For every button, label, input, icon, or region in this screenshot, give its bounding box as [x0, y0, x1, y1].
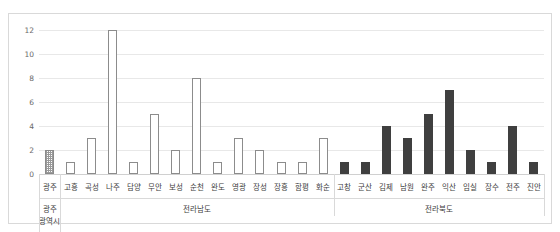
- bar-slot: [186, 30, 207, 174]
- group-label-line: 광역시: [39, 216, 60, 228]
- group-axis-labels: 광주광역시전라남도전라북도: [39, 198, 544, 232]
- category-label-고창: 고창: [334, 174, 355, 198]
- category-label-곡성: 곡성: [81, 174, 102, 198]
- bar-무안: [150, 114, 159, 174]
- bar-slot: [292, 30, 313, 174]
- bar-전주: [508, 126, 517, 174]
- bar-진안: [529, 162, 538, 174]
- category-label-장흥: 장흥: [271, 174, 292, 198]
- bar-고창: [340, 162, 349, 174]
- group-label-line: 전라북도: [425, 204, 453, 216]
- y-tick-4: 4: [29, 122, 34, 131]
- bar-slot: [102, 30, 123, 174]
- bar-slot: [334, 30, 355, 174]
- y-tick-6: 6: [29, 98, 34, 107]
- category-axis-labels: 광주고흥곡성나주담양무안보성순천완도영광장성장흥함평화순고창군산김제남원완주익산…: [39, 174, 544, 198]
- y-tick-8: 8: [29, 74, 34, 83]
- category-label-김제: 김제: [376, 174, 397, 198]
- bar-함평: [298, 162, 307, 174]
- bar-slot: [207, 30, 228, 174]
- category-label-보성: 보성: [165, 174, 186, 198]
- bar-slot: [165, 30, 186, 174]
- bar-slot: [271, 30, 292, 174]
- bar-장성: [255, 150, 264, 174]
- group-label-광주광역시: 광주광역시: [39, 198, 60, 232]
- category-band-baseline: [39, 198, 544, 199]
- bar-남원: [403, 138, 412, 174]
- group-label-line: 광주: [43, 204, 57, 216]
- chart-frame: 024681012 광주고흥곡성나주담양무안보성순천완도영광장성장흥함평화순고창…: [8, 13, 552, 224]
- bar-slot: [418, 30, 439, 174]
- bar-slot: [439, 30, 460, 174]
- category-label-군산: 군산: [355, 174, 376, 198]
- bar-slot: [397, 30, 418, 174]
- bar-담양: [129, 162, 138, 174]
- bar-완주: [424, 114, 433, 174]
- group-label-line: 전라남도: [183, 204, 211, 216]
- group-separator: [60, 174, 61, 232]
- category-label-익산: 익산: [439, 174, 460, 198]
- plot-area: 024681012: [39, 30, 544, 174]
- bar-순천: [192, 78, 201, 174]
- bar-장수: [487, 162, 496, 174]
- category-label-장성: 장성: [249, 174, 270, 198]
- bar-slot: [481, 30, 502, 174]
- bar-slot: [313, 30, 334, 174]
- bar-화순: [319, 138, 328, 174]
- bar-나주: [108, 30, 117, 174]
- category-label-순천: 순천: [186, 174, 207, 198]
- bar-slot: [502, 30, 523, 174]
- bar-slot: [228, 30, 249, 174]
- category-label-전주: 전주: [502, 174, 523, 198]
- bar-군산: [361, 162, 370, 174]
- category-label-담양: 담양: [123, 174, 144, 198]
- category-label-고흥: 고흥: [60, 174, 81, 198]
- bar-보성: [171, 150, 180, 174]
- bar-slot: [460, 30, 481, 174]
- category-label-남원: 남원: [397, 174, 418, 198]
- bar-slot: [144, 30, 165, 174]
- y-tick-10: 10: [24, 50, 34, 59]
- category-label-화순: 화순: [313, 174, 334, 198]
- bar-영광: [234, 138, 243, 174]
- group-separator: [334, 174, 335, 216]
- bar-series: [39, 30, 544, 174]
- bar-고흥: [66, 162, 75, 174]
- bar-slot: [39, 30, 60, 174]
- category-label-나주: 나주: [102, 174, 123, 198]
- bar-장흥: [277, 162, 286, 174]
- group-label-전라남도: 전라남도: [60, 198, 334, 232]
- bar-slot: [60, 30, 81, 174]
- y-tick-2: 2: [29, 146, 34, 155]
- bar-slot: [355, 30, 376, 174]
- bar-slot: [81, 30, 102, 174]
- bar-slot: [123, 30, 144, 174]
- category-label-진안: 진안: [523, 174, 544, 198]
- chart-screenshot: 024681012 광주고흥곡성나주담양무안보성순천완도영광장성장흥함평화순고창…: [0, 0, 560, 232]
- category-label-함평: 함평: [292, 174, 313, 198]
- y-tick-12: 12: [24, 26, 34, 35]
- bar-임실: [466, 150, 475, 174]
- group-separator: [39, 174, 40, 232]
- category-label-완주: 완주: [418, 174, 439, 198]
- bar-익산: [445, 90, 454, 174]
- bar-slot: [249, 30, 270, 174]
- category-label-완도: 완도: [207, 174, 228, 198]
- bar-slot: [523, 30, 544, 174]
- group-separator: [544, 174, 545, 216]
- bar-완도: [213, 162, 222, 174]
- category-label-임실: 임실: [460, 174, 481, 198]
- category-label-장수: 장수: [481, 174, 502, 198]
- category-label-영광: 영광: [228, 174, 249, 198]
- bar-slot: [376, 30, 397, 174]
- y-tick-0: 0: [29, 170, 34, 179]
- bar-광주: [45, 150, 54, 174]
- category-label-광주: 광주: [39, 174, 60, 198]
- bar-김제: [382, 126, 391, 174]
- group-label-전라북도: 전라북도: [334, 198, 544, 232]
- bar-곡성: [87, 138, 96, 174]
- category-label-무안: 무안: [144, 174, 165, 198]
